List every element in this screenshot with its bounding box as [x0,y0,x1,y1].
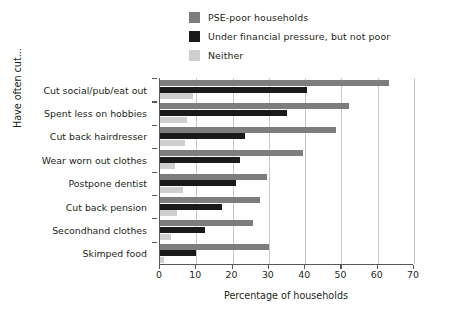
plot-area [159,78,413,265]
bar [160,103,349,109]
bar [160,197,260,203]
x-axis-tick-label: 10 [189,269,201,280]
legend-swatch-neither [189,50,200,61]
y-axis-tick [152,125,157,126]
x-axis-ticks: 010203040506070 [159,265,413,279]
x-axis-tick-label: 30 [262,269,274,280]
x-axis-tick-label: 40 [298,269,310,280]
y-axis-label: Skimped food [83,248,148,259]
y-axis-tick [152,78,157,79]
bar-group [160,101,413,124]
legend-label-pse-poor: PSE-poor households [208,12,308,23]
x-axis-tick-label: 20 [226,269,238,280]
bar-series-container [160,78,413,264]
x-axis-tick-label: 70 [407,269,419,280]
legend-item-neither: Neither [189,46,449,65]
bar [160,174,267,180]
y-axis-tick [152,148,157,149]
y-axis-tick [152,172,157,173]
x-axis-title: Percentage of households [159,290,413,301]
legend-label-financial-pressure: Under financial pressure, but not poor [208,31,390,42]
bar-group [160,78,413,101]
y-axis-label: Wear worn out clothes [42,154,147,165]
bar [160,187,183,193]
bar [160,127,336,133]
bar [160,87,307,93]
bar [160,210,177,216]
bar [160,220,253,226]
bar [160,117,187,123]
bar [160,163,175,169]
bar-group [160,242,413,265]
y-axis-tick [152,195,157,196]
bar [160,80,389,86]
bar [160,180,236,186]
y-axis-label: Cut back hairdresser [50,131,147,142]
y-axis-tick [152,242,157,243]
bar [160,227,205,233]
y-axis-labels: Cut social/pub/eat outSpent less on hobb… [0,78,155,265]
y-axis-tick [152,218,157,219]
y-axis-label: Cut back pension [66,201,147,212]
bar-group [160,195,413,218]
legend-swatch-pse-poor [189,12,200,23]
bar [160,150,303,156]
bar [160,110,287,116]
legend-item-financial-pressure: Under financial pressure, but not poor [189,27,449,46]
bar-group [160,148,413,171]
bar [160,234,171,240]
y-axis-label: Spent less on hobbies [44,108,147,119]
bar [160,250,196,256]
x-axis-tick-label: 50 [334,269,346,280]
gridline-70 [414,78,415,264]
bar-group [160,218,413,241]
bar-group [160,125,413,148]
bar [160,204,222,210]
y-axis-label: Postpone dentist [69,178,148,189]
bar-group [160,172,413,195]
legend-label-neither: Neither [208,50,243,61]
x-axis-tick-label: 0 [156,269,162,280]
x-axis-tick-label: 60 [371,269,383,280]
bar [160,244,269,250]
bar [160,157,240,163]
bar [160,257,164,263]
y-axis-label: Secondhand clothes [52,224,147,235]
bar [160,140,185,146]
y-axis-label: Cut social/pub/eat out [43,84,147,95]
legend-swatch-financial-pressure [189,31,200,42]
bar [160,93,193,99]
chart-legend: PSE-poor households Under financial pres… [189,8,449,65]
y-axis-tick [152,101,157,102]
legend-item-pse-poor: PSE-poor households [189,8,449,27]
bar [160,133,245,139]
